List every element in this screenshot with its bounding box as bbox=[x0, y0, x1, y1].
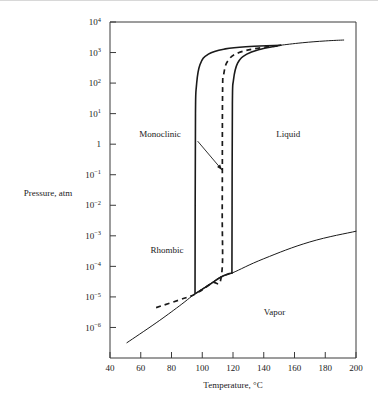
phase-boundary-curves bbox=[127, 40, 356, 343]
x-axis-ticks bbox=[110, 352, 356, 358]
y-tick-label: 101 bbox=[89, 107, 101, 119]
x-tick-label: 140 bbox=[257, 363, 271, 373]
region-label-vapor: Vapor bbox=[264, 307, 286, 317]
y-tick-label: 10−5 bbox=[85, 291, 101, 303]
y-tick-label: 10−4 bbox=[85, 260, 102, 272]
y-axis-tick-labels: 104103102101110−110−210−310−410−510−6 bbox=[85, 16, 102, 333]
y-tick-label: 1 bbox=[97, 139, 102, 149]
y-tick-label: 10−6 bbox=[85, 321, 101, 333]
x-tick-label: 200 bbox=[349, 363, 363, 373]
sulfur-phase-diagram-figure: 104103102101110−110−210−310−410−510−6 40… bbox=[0, 0, 378, 412]
x-tick-label: 180 bbox=[319, 363, 333, 373]
x-tick-label: 120 bbox=[226, 363, 240, 373]
region-label-rhombic: Rhombic bbox=[150, 245, 183, 255]
y-tick-label: 103 bbox=[89, 46, 101, 58]
curve-liquid-vapor-and-upper-branch bbox=[281, 40, 344, 45]
x-tick-label: 40 bbox=[106, 363, 116, 373]
curve-metastable-rhombic-monoclinic-dashed bbox=[156, 46, 277, 308]
phase-diagram-plot: 104103102101110−110−210−310−410−510−6 40… bbox=[0, 0, 378, 412]
curve-lower-triple-point-hook bbox=[195, 273, 232, 294]
curve-rhombic-monoclinic-boundary bbox=[195, 45, 281, 293]
region-label-liquid: Liquid bbox=[276, 129, 300, 139]
y-axis-title: Pressure, atm bbox=[24, 188, 73, 198]
y-axis-ticks bbox=[110, 22, 116, 327]
y-tick-label: 104 bbox=[89, 16, 102, 28]
x-tick-label: 100 bbox=[196, 363, 210, 373]
curve-monoclinic-liquid-boundary bbox=[232, 45, 281, 273]
y-tick-label: 10−3 bbox=[85, 229, 101, 241]
x-axis-tick-labels: 406080100120140160180200 bbox=[106, 363, 364, 373]
y-tick-label: 102 bbox=[89, 77, 101, 89]
y-tick-label: 10−1 bbox=[85, 168, 101, 180]
x-tick-label: 160 bbox=[288, 363, 302, 373]
monoclinic-leader-line bbox=[198, 141, 223, 170]
x-tick-label: 60 bbox=[136, 363, 146, 373]
x-axis-title: Temperature, °C bbox=[203, 380, 262, 390]
region-labels: RhombicMonoclinicLiquidVapor bbox=[139, 129, 301, 318]
x-tick-label: 80 bbox=[167, 363, 177, 373]
y-tick-label: 10−2 bbox=[85, 199, 101, 211]
plot-frame bbox=[110, 22, 356, 358]
annotation-leader bbox=[198, 141, 223, 170]
region-label-monoclinic: Monoclinic bbox=[139, 129, 181, 139]
